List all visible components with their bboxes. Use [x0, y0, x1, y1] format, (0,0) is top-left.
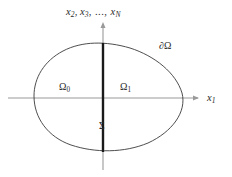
boundary-label: ∂Ω [159, 41, 171, 51]
vertical-axis-arrow-icon [101, 22, 106, 28]
omega-one-label: Ω1 [120, 82, 131, 94]
sigma-label: Σ [99, 122, 105, 132]
omega-one-label-sub: 1 [127, 86, 131, 94]
figure-container: x2, x3, ..., xN x1 ∂Ω Ω0 Ω1 Σ [0, 0, 232, 177]
omega-zero-label: Ω0 [59, 82, 70, 94]
omega-zero-label-sub: 0 [66, 86, 70, 94]
horizontal-axis-arrow-icon [193, 95, 199, 100]
horizontal-axis-label: x1 [207, 93, 215, 105]
horizontal-axis-label-sub-1: 1 [212, 96, 216, 105]
vertical-axis-label: x2, x3, ..., xN [66, 7, 121, 19]
vertical-axis-label-sub-n: N [115, 10, 120, 19]
diagram-canvas [0, 0, 232, 177]
vertical-axis-label-ellipsis: , ..., [89, 6, 111, 17]
vertical-axis-label-sub-2: 2 [71, 10, 75, 19]
boundary-curve-path [34, 43, 183, 151]
